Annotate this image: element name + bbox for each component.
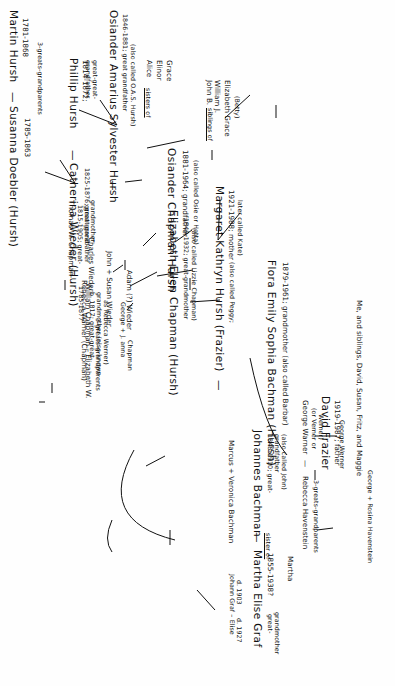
note-rebecca-havenstein: 3-greats-grandparents <box>312 480 319 553</box>
note2-martha-elise: grandmother <box>273 612 280 654</box>
person-george-rosina-havenstein: George + Rosina Havenstein <box>366 470 373 563</box>
marriage-dash: — <box>214 380 225 391</box>
marriage-dash: — <box>252 532 263 543</box>
relation-siblings-of: siblings of <box>206 108 213 141</box>
marriage-dash: — <box>8 92 19 103</box>
dates-osiander-amarius: 1846-1881; great grandfather <box>121 14 128 111</box>
dates-susanna-doebler: 1785-1863 <box>23 118 31 157</box>
person-thomas-chapman: Thomas W. Chapman <box>67 200 75 276</box>
dates-elise-graf: d. 1927 <box>235 618 242 643</box>
marriage-dash: — <box>67 271 75 278</box>
dates-johann-graf: d. 1903 <box>235 580 242 605</box>
note-margaret-kathryn: (also called Peggy; <box>228 262 235 323</box>
note2-johannes: (also called John) <box>280 434 287 490</box>
surname-chapman: Chapman <box>126 340 133 371</box>
relation-sisters-of: sisters of <box>144 88 151 118</box>
relation-sister-of: sister of <box>264 533 271 559</box>
name: Martin Hursh <box>8 10 20 83</box>
note2-rebecca-warner: as Rebecca Werner) <box>102 300 109 365</box>
marriage-dash: — <box>108 180 119 191</box>
person-george-warner: George Warner <box>301 400 309 454</box>
note-osiander-chapman: (also called Osie or Hatta) <box>192 160 199 245</box>
note-martha-elise: great- <box>266 614 273 634</box>
marriage-dash: — <box>166 266 177 277</box>
person-marcus-veronica: Marcus + Veronica Bachman <box>227 440 235 543</box>
sibling-elinor: Elinor <box>155 60 163 80</box>
person-johannes-bachman: Johannes Bachman <box>252 430 263 537</box>
me-and-siblings: Me, and siblings, David, Susan, Fritz, a… <box>355 300 363 476</box>
person-osiander-amarius: Osiander Amarius Sylvester Hursh <box>108 10 119 203</box>
dates-johannes: 1848-1910; great- <box>266 434 273 493</box>
sibling-betty: (Betty) <box>233 96 240 118</box>
person-martin-hursh: Martin Hursh <box>8 10 19 83</box>
sibling-william-j: William J. <box>213 80 221 113</box>
dates-martin-hursh: 1781-1868 <box>21 18 29 57</box>
dates-thomas-chapman: 1815-1905; great- <box>76 205 83 264</box>
sibling-john-b: John B. <box>205 80 213 105</box>
note-phillip-hursh: great-great-grandfather <box>85 60 98 105</box>
person-martha-elise-graf: Martha Elise Graf <box>252 550 263 647</box>
note-rebecca-warner: grandmother (also known <box>95 292 102 375</box>
person-david-frazier: David Frazier <box>320 396 331 470</box>
dates-margaret-kathryn: 1921-1988; mother <box>227 190 235 260</box>
sibling-grace: Grace <box>165 60 173 81</box>
person-rebecca-warner: Rebecca Warner (Chapman) <box>80 280 88 381</box>
alt-george-warner: (or Verner or <box>310 408 317 449</box>
note-johannes: grandfather <box>273 434 280 473</box>
person-rebecca-havenstein: Rebecca Havenstein <box>301 476 309 549</box>
note2-margaret-kathryn: later called Kate) <box>236 200 243 256</box>
note-thomas-chapman: great grandfather <box>83 205 90 263</box>
dates-osiander-chapman: 1881-1964; grandfather <box>181 150 189 237</box>
sibling-alice: Alice <box>145 60 153 77</box>
person-johann-graf: Johann Graf – Elise <box>228 574 235 635</box>
marriage-dash: — <box>301 460 309 467</box>
dates-rebecca-warner: b. 1817; great-great- <box>88 292 95 360</box>
sibling-elizabeth-grace: Elizabeth Grace <box>223 80 231 137</box>
dates-martha-elise: 1855-1938? <box>266 553 274 596</box>
person-phillip-hursh: Phillip Hursh <box>68 58 79 129</box>
family-tree-document: Martin Hursh 1781-1868 3-greats-grandpar… <box>0 0 395 686</box>
tree-connector-lines <box>0 0 395 686</box>
marriage-dash: — <box>68 150 79 161</box>
note-martin-hursh: 3-greats-grandparents <box>36 42 43 115</box>
person-martha-sibling: Martha <box>286 556 294 581</box>
person-margaret-kathryn: Margaret Kathryn Hursh (Frazier) <box>214 186 225 372</box>
person-susanna-doebler: Susanna Doebler (Hursh) <box>8 106 19 247</box>
dates-david-frazier: 1919-1987; father <box>333 400 341 466</box>
dates-flora-emily: 1879-1961; grandmother (also called Barb… <box>281 262 289 426</box>
person-george-janet-chapman: George + J. anna <box>119 302 126 357</box>
note-osiander-amarius: (also called O.A.S. Hursh) <box>129 44 136 126</box>
